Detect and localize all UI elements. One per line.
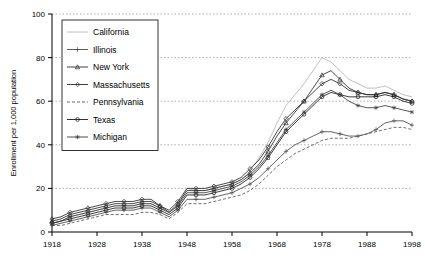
legend-label-new-york: New York [93,62,130,72]
x-tick-label: 1938 [133,240,151,249]
y-tick-label: 20 [36,184,45,193]
y-tick-label: 100 [32,10,46,19]
x-tick-label: 1918 [43,240,61,249]
legend-label-pennsylvania: Pennsylvania [93,97,144,107]
x-tick-label: 1958 [223,240,241,249]
legend: CaliforniaIllinoisNew YorkMassachusettsP… [62,20,158,151]
enrollment-line-chart: 0204060801001918192819381948195819681978… [0,0,425,269]
legend-label-california: California [93,27,129,37]
y-tick-label: 0 [41,228,46,237]
x-tick-label: 1978 [313,240,331,249]
legend-label-massachusetts: Massachusetts [93,80,150,90]
y-tick-label: 80 [36,54,45,63]
legend-label-michigan: Michigan [93,132,127,142]
x-tick-label: 1948 [178,240,196,249]
legend-label-texas: Texas [93,115,115,125]
legend-label-illinois: Illinois [93,45,117,55]
y-tick-label: 40 [36,141,45,150]
y-tick-label: 60 [36,97,45,106]
x-tick-label: 1968 [268,240,286,249]
chart-container: 0204060801001918192819381948195819681978… [0,0,425,269]
x-tick-label: 1988 [358,240,376,249]
y-axis-title: Enrollment per 1,000 population [9,70,18,176]
x-tick-label: 1928 [88,240,106,249]
x-tick-label: 1998 [403,240,421,249]
